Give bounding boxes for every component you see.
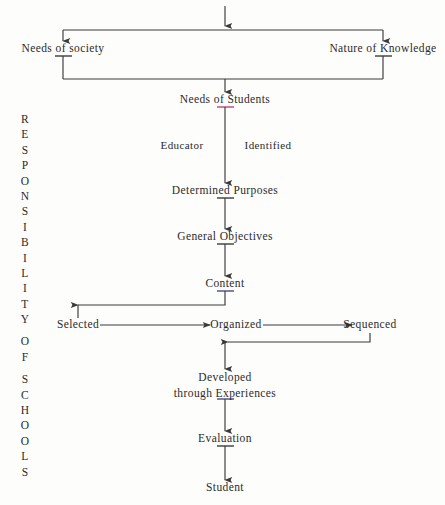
- node-sequenced: Sequenced: [343, 318, 396, 330]
- vertical-caption-letter: L: [14, 266, 36, 281]
- vertical-caption-letter: L: [14, 449, 36, 464]
- vertical-caption-letter: O: [14, 334, 36, 349]
- vertical-caption-gap: [14, 365, 36, 372]
- edge-content-to-selected: [78, 291, 225, 305]
- vertical-caption-responsibility-of-schools: RESPONSIBILITYOFSCHOOLS: [14, 112, 36, 480]
- vertical-caption-letter: S: [14, 204, 36, 219]
- edge-label-identified: Identified: [245, 139, 292, 151]
- vertical-caption-letter: O: [14, 434, 36, 449]
- vertical-caption-letter: S: [14, 143, 36, 158]
- vertical-caption-gap: [14, 327, 36, 334]
- node-selected: Selected: [57, 318, 99, 330]
- node-evaluation: Evaluation: [198, 431, 252, 446]
- vertical-caption-letter: N: [14, 189, 36, 204]
- vertical-caption-letter: S: [14, 372, 36, 387]
- node-determined-purposes: Determined Purposes: [172, 183, 278, 198]
- vertical-caption-letter: H: [14, 403, 36, 418]
- vertical-caption-letter: F: [14, 350, 36, 365]
- node-developed-through-experiences: Developed through Experiences: [174, 369, 276, 401]
- node-general-objectives: General Objectives: [177, 229, 273, 244]
- vertical-caption-letter: R: [14, 112, 36, 127]
- vertical-caption-letter: I: [14, 281, 36, 296]
- vertical-caption-letter: C: [14, 388, 36, 403]
- vertical-caption-letter: S: [14, 465, 36, 480]
- vertical-caption-letter: Y: [14, 312, 36, 327]
- flowchart-connectors: [0, 0, 445, 505]
- vertical-caption-letter: E: [14, 127, 36, 142]
- node-needs-of-society: Needs of society: [21, 41, 104, 56]
- node-organized: Organized: [210, 318, 261, 330]
- vertical-caption-letter: B: [14, 235, 36, 250]
- vertical-caption-letter: P: [14, 158, 36, 173]
- vertical-caption-letter: T: [14, 297, 36, 312]
- vertical-caption-letter: I: [14, 220, 36, 235]
- diagram-page: RESPONSIBILITYOFSCHOOLS Needs of society…: [0, 0, 445, 505]
- vertical-caption-word: SCHOOLS: [14, 372, 36, 480]
- developed-line-1: Developed: [174, 369, 276, 385]
- developed-line-2: through Experiences: [174, 385, 276, 401]
- edge-sequenced-to-trunk: [228, 333, 370, 342]
- vertical-caption-word: RESPONSIBILITY: [14, 112, 36, 327]
- vertical-caption-word: OF: [14, 334, 36, 365]
- vertical-caption-letter: O: [14, 174, 36, 189]
- node-content: Content: [205, 276, 244, 291]
- vertical-caption-letter: I: [14, 251, 36, 266]
- edge-label-educator: Educator: [161, 139, 204, 151]
- vertical-caption-letter: O: [14, 418, 36, 433]
- node-needs-of-students: Needs of Students: [180, 92, 270, 107]
- node-nature-of-knowledge: Nature of Knowledge: [329, 41, 436, 56]
- node-student: Student: [206, 480, 244, 495]
